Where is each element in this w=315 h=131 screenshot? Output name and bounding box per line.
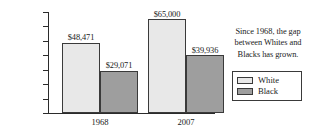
x-tick-label-2007: 2007 <box>160 117 212 127</box>
y-tick-mark <box>43 70 48 71</box>
y-tick-mark <box>43 55 48 56</box>
chart-annotation: Since 1968, the gap between Whites and B… <box>222 26 314 60</box>
bar-black-2007 <box>186 55 224 113</box>
legend-label-black: Black <box>258 87 278 96</box>
bar-black-1968 <box>100 71 138 113</box>
legend-label-white: White <box>258 76 279 85</box>
x-tick-label-1968: 1968 <box>74 117 126 127</box>
y-tick-mark <box>43 41 48 42</box>
annotation-line-2: between Whites and <box>222 37 314 48</box>
legend-swatch-white-icon <box>237 77 253 84</box>
bar-chart-figure: $70,000 $60,000 $50,000 $40,000 $30,000 … <box>0 0 315 131</box>
bar-label-white-2007: $65,000 <box>141 10 193 19</box>
y-tick-mark <box>43 26 48 27</box>
bar-label-white-1968: $48,471 <box>55 33 107 42</box>
y-axis-line <box>48 12 49 113</box>
annotation-line-3: Blacks has grown. <box>222 49 314 60</box>
y-tick-mark <box>43 12 48 13</box>
bar-label-black-1968: $29,071 <box>93 61 145 70</box>
y-tick-mark <box>43 99 48 100</box>
y-tick-mark <box>43 84 48 85</box>
annotation-line-1: Since 1968, the gap <box>222 26 314 37</box>
chart-legend: White Black <box>232 71 302 101</box>
y-tick-mark <box>43 113 48 114</box>
x-axis-line <box>48 113 215 114</box>
bar-white-2007 <box>148 19 186 113</box>
bar-white-1968 <box>62 43 100 113</box>
plot-area: $70,000 $60,000 $50,000 $40,000 $30,000 … <box>0 0 225 131</box>
legend-item-black: Black <box>237 86 296 97</box>
legend-swatch-black-icon <box>237 88 253 95</box>
legend-item-white: White <box>237 75 296 86</box>
